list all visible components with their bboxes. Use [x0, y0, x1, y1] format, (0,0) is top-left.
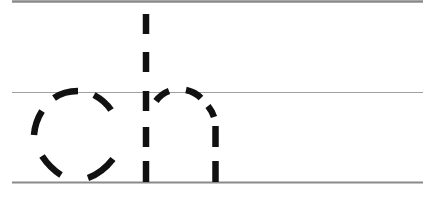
letter-c-tracing: [34, 91, 113, 178]
letter-h-tracing: [146, 14, 216, 182]
handwriting-worksheet: ch: [0, 0, 423, 205]
tracing-canvas: [0, 0, 423, 205]
